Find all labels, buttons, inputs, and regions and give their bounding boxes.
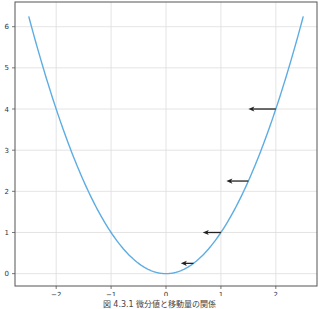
- arrow-annotation: [248, 106, 275, 111]
- y-axis-ticks: 0123456: [5, 23, 15, 278]
- x-axis-ticks: −2−1012: [51, 286, 278, 296]
- x-tick-label: 1: [219, 291, 223, 296]
- y-tick-label: 4: [5, 106, 10, 114]
- x-tick-label: −1: [106, 291, 116, 296]
- y-tick-label: 3: [5, 147, 9, 155]
- y-tick-label: 6: [5, 23, 10, 31]
- grid-lines: [15, 2, 317, 286]
- y-tick-label: 1: [5, 229, 9, 237]
- arrow-annotation: [226, 178, 248, 183]
- x-tick-label: 2: [274, 291, 278, 296]
- chart-plot: −2−1012 0123456: [0, 0, 319, 296]
- x-tick-label: 0: [164, 291, 168, 296]
- y-tick-label: 5: [5, 64, 9, 72]
- x-tick-label: −2: [51, 291, 61, 296]
- y-tick-label: 0: [5, 270, 9, 278]
- figure-caption: 図 4.3.1 微分値と移動量の関係: [0, 298, 319, 309]
- gradient-arrows: [181, 106, 276, 266]
- arrow-annotation: [203, 230, 221, 235]
- y-tick-label: 2: [5, 188, 9, 196]
